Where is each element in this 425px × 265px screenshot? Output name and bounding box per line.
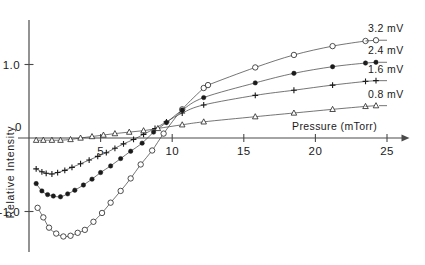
series-1-marker	[73, 188, 77, 192]
series-0-marker	[108, 200, 113, 205]
series-0-marker	[128, 176, 133, 181]
legend-label-2: 1.6 mV	[368, 63, 404, 75]
data-markers	[33, 38, 368, 239]
series-2-marker	[69, 165, 75, 171]
series-1-marker	[330, 65, 334, 69]
series-0-marker	[161, 131, 166, 136]
series-1-marker	[58, 195, 62, 199]
series-curve-0	[38, 41, 366, 237]
series-2-marker	[49, 171, 55, 177]
axes-group	[18, 20, 409, 252]
legend-marker-3	[373, 103, 379, 108]
series-1-marker	[118, 156, 122, 160]
series-0-marker	[82, 227, 87, 232]
series-1-marker	[292, 71, 296, 75]
series-1-marker	[90, 177, 94, 181]
series-1-marker	[65, 192, 69, 196]
series-0-marker	[99, 210, 104, 215]
scatter-plot-svg: 510152025 1.0-1.0 3.2 mV2.4 mV1.6 mV0.8 …	[0, 0, 425, 265]
series-0-marker	[330, 43, 335, 48]
series-0-marker	[35, 205, 40, 210]
series-2-marker	[55, 170, 61, 176]
y-axis-title: Relative Intensity	[4, 126, 16, 219]
series-2-marker	[103, 150, 109, 156]
legend-label-1: 2.4 mV	[368, 44, 404, 56]
legend-marker-2	[373, 78, 379, 84]
series-1-marker	[253, 81, 257, 85]
series-1-marker	[81, 183, 85, 187]
series-2-marker	[33, 166, 39, 172]
series-1-marker	[128, 149, 132, 153]
legend-label-3: 0.8 mV	[368, 88, 404, 100]
series-0-marker	[54, 231, 59, 236]
x-axis-title: Pressure (mTorr)	[292, 120, 377, 132]
series-0-marker	[138, 162, 143, 167]
series-2-marker	[62, 167, 68, 173]
series-0-marker	[253, 65, 258, 70]
series-2-marker	[86, 157, 92, 163]
series-0-marker	[149, 148, 154, 153]
legend-marker-0	[373, 38, 378, 43]
legend-label-0: 3.2 mV	[368, 22, 404, 34]
series-0-marker	[61, 234, 66, 239]
x-tick-label: 20	[309, 145, 323, 157]
x-tick-label: 10	[165, 145, 179, 157]
series-1-marker	[40, 189, 44, 193]
series-1-marker	[45, 192, 49, 196]
series-1-marker	[98, 170, 102, 174]
series-0-marker	[46, 225, 51, 230]
series-2-marker	[43, 170, 49, 176]
series-1-marker	[108, 164, 112, 168]
series-2-marker	[291, 87, 297, 93]
origin-label: 0	[15, 121, 22, 133]
series-1-marker	[202, 95, 206, 99]
series-1-marker	[51, 194, 55, 198]
series-0-marker	[118, 188, 123, 193]
chart-figure: 510152025 1.0-1.0 3.2 mV2.4 mV1.6 mV0.8 …	[0, 0, 425, 265]
series-2-marker	[39, 169, 45, 175]
series-legend: 3.2 mV2.4 mV1.6 mV0.8 mV	[366, 22, 404, 108]
series-0-marker	[205, 82, 210, 87]
series-0-marker	[291, 52, 296, 57]
series-0-marker	[91, 219, 96, 224]
series-2-marker	[78, 161, 84, 167]
series-2-marker	[330, 82, 336, 88]
x-axis-arrow-icon	[401, 134, 409, 141]
series-2-marker	[201, 102, 207, 108]
data-curves	[36, 41, 365, 237]
series-0-marker	[68, 233, 73, 238]
series-0-marker	[75, 230, 80, 235]
series-0-marker	[41, 215, 46, 220]
series-1-marker	[34, 181, 38, 185]
x-tick-label: 15	[237, 145, 251, 157]
series-1-marker	[140, 141, 144, 145]
series-2-marker	[252, 92, 258, 98]
x-tick-label: 25	[380, 145, 394, 157]
series-2-marker	[121, 141, 127, 147]
series-2-marker	[112, 145, 118, 151]
y-tick-label: 1.0	[3, 59, 20, 71]
